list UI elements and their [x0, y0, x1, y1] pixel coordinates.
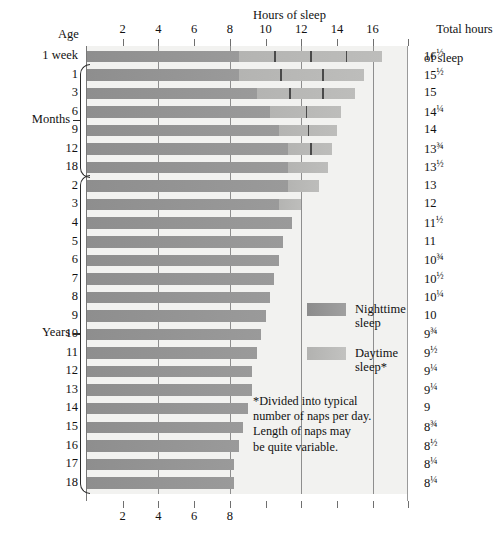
bar-segment-nighttime	[87, 69, 239, 81]
chart-row: 914	[0, 122, 494, 138]
total-hours-value: 10	[424, 308, 437, 323]
axis-title-age: Age	[58, 27, 79, 41]
bar	[87, 106, 341, 118]
age-label-1: 1	[6, 67, 78, 82]
group-brace-nub	[73, 120, 80, 121]
total-hours-value: 9	[424, 400, 430, 415]
nap-divider	[280, 69, 282, 81]
chart-row: 411½	[0, 215, 494, 231]
total-hours-fraction: ¾	[430, 326, 437, 336]
bar-segment-nighttime	[87, 255, 279, 267]
bar-segment-nighttime	[87, 440, 239, 452]
nap-divider	[322, 69, 324, 81]
total-hours-value: 9¼	[424, 382, 437, 398]
age-label-13: 13	[6, 382, 78, 397]
tick-label-top-12: 12	[287, 22, 315, 37]
total-hours-fraction: ½	[437, 48, 444, 58]
total-hours-value: 15	[424, 85, 437, 100]
total-hours-value: 8¾	[424, 419, 437, 435]
total-hours-value: 11	[424, 234, 436, 249]
total-hours-line1: Total hours	[436, 22, 492, 36]
tick-top-12	[301, 39, 302, 46]
bar	[87, 162, 328, 174]
total-hours-value: 8½	[424, 438, 437, 454]
total-hours-value: 14	[424, 122, 437, 137]
tick-top-18	[408, 39, 409, 46]
age-label-6: 6	[6, 252, 78, 267]
group-brace-months	[80, 64, 90, 179]
chart-row: 188¼	[0, 475, 494, 491]
bar-segment-daytime	[288, 180, 319, 192]
bar	[87, 51, 382, 63]
tick-top-4	[158, 39, 159, 46]
bar-segment-nighttime	[87, 477, 234, 489]
bar	[87, 366, 252, 378]
chart-row: 139¼	[0, 382, 494, 398]
total-hours-fraction: ¼	[430, 456, 437, 466]
tick-label-bottom-8: 8	[216, 509, 244, 524]
chart-row: 910	[0, 308, 494, 324]
bar-segment-nighttime	[87, 217, 292, 229]
bar	[87, 384, 252, 396]
tick-label-top-4: 4	[144, 22, 172, 37]
bar-segment-nighttime	[87, 459, 234, 471]
tick-top-10	[266, 39, 267, 46]
bar	[87, 69, 364, 81]
bar	[87, 292, 270, 304]
footnote: *Divided into typical number of naps per…	[253, 394, 371, 455]
group-label-years: Years	[6, 325, 70, 340]
tick-label-bottom-6: 6	[180, 509, 208, 524]
age-label-18: 18	[6, 159, 78, 174]
total-hours-fraction: ¼	[430, 382, 437, 392]
chart-row: 213	[0, 178, 494, 194]
tick-bottom-10	[266, 501, 267, 508]
total-hours-fraction: ½	[430, 438, 437, 448]
legend-nighttime-line1: Nighttime	[355, 302, 406, 316]
nap-divider	[310, 143, 312, 155]
bar	[87, 273, 274, 285]
legend-nighttime-line2: sleep	[355, 316, 381, 330]
chart-row: 168½	[0, 438, 494, 454]
tick-label-top-10: 10	[252, 22, 280, 37]
chart-row: 614¼	[0, 104, 494, 120]
chart-row: 178¼	[0, 456, 494, 472]
group-brace-years	[80, 175, 90, 494]
legend-daytime-line2: sleep*	[355, 360, 387, 374]
age-label-17: 17	[6, 456, 78, 471]
total-hours-fraction: ½	[437, 159, 444, 169]
age-label-12: 12	[6, 141, 78, 156]
chart-row: 810¼	[0, 289, 494, 305]
tick-top-14	[337, 39, 338, 46]
tick-bottom-18	[408, 501, 409, 508]
bar-segment-nighttime	[87, 403, 248, 415]
bar-segment-nighttime	[87, 236, 283, 248]
bar-segment-daytime	[257, 88, 355, 100]
total-hours-fraction: ½	[436, 215, 443, 225]
bar-segment-nighttime	[87, 273, 274, 285]
age-label-11: 11	[6, 345, 78, 360]
total-hours-fraction: ½	[437, 271, 444, 281]
bar-segment-nighttime	[87, 310, 266, 322]
age-label-16: 16	[6, 438, 78, 453]
nap-divider	[274, 51, 276, 63]
total-hours-value: 8¼	[424, 475, 437, 491]
total-hours-value: 9½	[424, 345, 437, 361]
total-hours-value: 9¼	[424, 363, 437, 379]
bar-segment-nighttime	[87, 199, 279, 211]
total-hours-value: 10¾	[424, 252, 444, 268]
total-hours-value: 11½	[424, 215, 443, 231]
total-hours-fraction: ¾	[437, 252, 444, 262]
bar	[87, 310, 266, 322]
legend-label-nighttime: Nighttime sleep	[355, 302, 406, 330]
bar	[87, 477, 234, 489]
total-hours-value: 9¾	[424, 326, 437, 342]
bar-segment-nighttime	[87, 422, 243, 434]
group-label-months: Months	[6, 112, 70, 127]
total-hours-value: 13¾	[424, 141, 444, 157]
total-hours-fraction: ½	[437, 67, 444, 77]
total-hours-fraction: ¼	[437, 104, 444, 114]
footnote-line-1: *Divided into typical	[253, 394, 371, 409]
bar-segment-nighttime	[87, 106, 270, 118]
age-label-3: 3	[6, 85, 78, 100]
tick-label-bottom-4: 4	[144, 509, 172, 524]
